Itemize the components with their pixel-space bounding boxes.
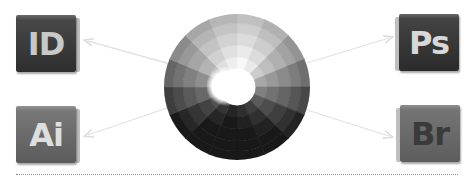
arrow-to-ps <box>307 38 389 63</box>
indesign-icon: ID <box>16 15 76 72</box>
illustrator-label: Ai <box>29 119 63 151</box>
arrow-to-ai <box>88 108 167 135</box>
dotted-divider <box>16 174 458 175</box>
arrow-to-br <box>307 110 389 136</box>
color-wheel-hole <box>206 66 246 106</box>
photoshop-label: Ps <box>409 27 449 59</box>
illustrator-icon: Ai <box>16 106 76 163</box>
photoshop-icon: Ps <box>399 14 459 71</box>
bridge-icon: Br <box>400 105 460 162</box>
indesign-label: ID <box>28 28 64 60</box>
arrow-to-id <box>88 41 170 64</box>
diagram-canvas: ID Ai Ps Br <box>0 0 476 179</box>
bridge-label: Br <box>411 118 449 150</box>
